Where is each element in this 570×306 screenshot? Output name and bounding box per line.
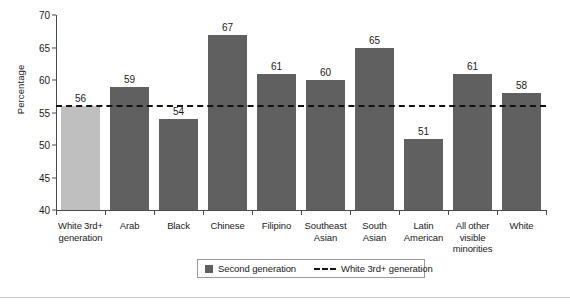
legend-swatch-second-generation	[205, 265, 213, 273]
footer-divider	[0, 297, 570, 298]
legend-label-second-generation: Second generation	[218, 263, 296, 274]
bar	[404, 139, 443, 211]
x-axis-tick-mark	[546, 210, 547, 215]
bar-value-label: 54	[159, 106, 199, 117]
bar	[306, 80, 345, 210]
bar	[355, 48, 394, 211]
bar-chart-figure: Percentage 40455055606570 56595467616065…	[0, 0, 570, 306]
bar-value-label: 65	[355, 35, 395, 46]
bar	[453, 74, 492, 211]
y-axis-tick-label: 65	[28, 42, 50, 53]
y-axis-tick-label: 60	[28, 75, 50, 86]
x-axis-tick-mark	[203, 210, 204, 215]
y-axis-tick-label: 55	[28, 107, 50, 118]
x-axis-tick-mark	[154, 210, 155, 215]
y-axis-tick-label: 40	[28, 205, 50, 216]
x-axis-tick-mark	[399, 210, 400, 215]
y-axis-line	[56, 15, 57, 211]
legend-dash-white-3rd-generation	[314, 268, 336, 270]
y-axis-tick-label: 45	[28, 172, 50, 183]
x-axis-tick-mark	[56, 210, 57, 215]
chart-legend: Second generation White 3rd+ generation	[197, 259, 425, 278]
bar-value-label: 56	[61, 93, 101, 104]
bar-value-label: 51	[404, 126, 444, 137]
bar	[502, 93, 541, 210]
x-axis-tick-mark	[448, 210, 449, 215]
bar-value-label: 61	[257, 61, 297, 72]
bar-value-label: 58	[502, 80, 542, 91]
bar-value-label: 61	[453, 61, 493, 72]
y-axis-tick-label: 70	[28, 10, 50, 21]
x-axis-tick-mark	[105, 210, 106, 215]
x-axis-tick-mark	[252, 210, 253, 215]
x-axis-tick-mark	[301, 210, 302, 215]
x-axis-category-label: White	[493, 220, 550, 232]
y-axis-tick-label: 50	[28, 140, 50, 151]
bar-value-label: 67	[208, 22, 248, 33]
legend-label-white-3rd-generation: White 3rd+ generation	[341, 263, 433, 274]
x-axis-tick-mark	[350, 210, 351, 215]
bar	[208, 35, 247, 211]
bar	[159, 119, 198, 210]
bar-value-label: 59	[110, 74, 150, 85]
y-axis-title: Percentage	[15, 44, 26, 136]
x-axis-tick-mark	[497, 210, 498, 215]
bar	[61, 106, 100, 210]
bar-value-label: 60	[306, 67, 346, 78]
bar	[257, 74, 296, 211]
reference-line-white-3rd-generation	[56, 105, 546, 107]
